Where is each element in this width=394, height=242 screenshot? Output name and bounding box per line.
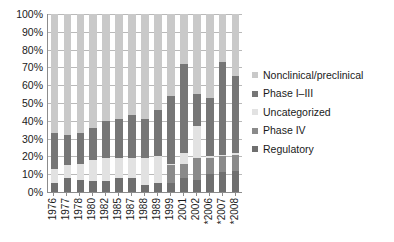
bar-column[interactable] [203, 14, 216, 192]
stacked-bar[interactable] [206, 14, 214, 192]
bar-column[interactable] [164, 14, 177, 192]
bar-segment[interactable] [167, 14, 175, 96]
bar-segment[interactable] [64, 178, 72, 192]
bar-column[interactable] [126, 14, 139, 192]
legend-item[interactable]: Regulatory [252, 140, 392, 159]
bar-segment[interactable] [89, 160, 97, 181]
stacked-bar[interactable] [180, 14, 188, 192]
bar-segment[interactable] [64, 135, 72, 165]
bar-segment[interactable] [115, 14, 123, 119]
bar-column[interactable] [61, 14, 74, 192]
bar-segment[interactable] [141, 119, 149, 158]
bar-segment[interactable] [232, 155, 240, 171]
bar-column[interactable] [152, 14, 165, 192]
bar-segment[interactable] [219, 156, 227, 172]
bar-column[interactable] [113, 14, 126, 192]
bar-segment[interactable] [206, 158, 214, 174]
stacked-bar[interactable] [219, 14, 227, 192]
bar-segment[interactable] [180, 153, 188, 164]
bar-segment[interactable] [154, 156, 162, 183]
bar-segment[interactable] [167, 165, 175, 183]
legend-swatch-icon [252, 128, 258, 134]
bar-segment[interactable] [193, 94, 201, 126]
bar-segment[interactable] [219, 172, 227, 192]
bar-segment[interactable] [102, 158, 110, 181]
bar-segment[interactable] [154, 14, 162, 110]
bar-column[interactable] [74, 14, 87, 192]
stacked-bar[interactable] [77, 14, 85, 192]
bar-segment[interactable] [219, 62, 227, 155]
bar-segment[interactable] [77, 14, 85, 133]
bar-segment[interactable] [232, 171, 240, 192]
bar-segment[interactable] [180, 64, 188, 153]
bar-segment[interactable] [51, 14, 59, 133]
stacked-bar[interactable] [232, 14, 240, 192]
stacked-bar[interactable] [167, 14, 175, 192]
bar-segment[interactable] [193, 158, 201, 179]
bar-segment[interactable] [64, 14, 72, 135]
bar-column[interactable] [190, 14, 203, 192]
bar-segment[interactable] [102, 181, 110, 192]
bar-segment[interactable] [180, 164, 188, 178]
bar-segment[interactable] [206, 174, 214, 192]
bar-segment[interactable] [89, 128, 97, 160]
bar-column[interactable] [139, 14, 152, 192]
stacked-bar[interactable] [64, 14, 72, 192]
bar-segment[interactable] [141, 185, 149, 192]
bar-segment[interactable] [77, 133, 85, 163]
bar-segment[interactable] [232, 14, 240, 76]
bar-column[interactable] [87, 14, 100, 192]
bar-segment[interactable] [102, 14, 110, 121]
bar-segment[interactable] [77, 180, 85, 192]
bar-segment[interactable] [89, 14, 97, 128]
stacked-bar[interactable] [193, 14, 201, 192]
bar-segment[interactable] [128, 158, 136, 178]
bar-segment[interactable] [141, 158, 149, 185]
bar-segment[interactable] [77, 164, 85, 180]
bar-segment[interactable] [206, 14, 214, 98]
stacked-bar[interactable] [51, 14, 59, 192]
bar-column[interactable] [177, 14, 190, 192]
bar-segment[interactable] [102, 121, 110, 158]
bar-segment[interactable] [51, 169, 59, 183]
bar-segment[interactable] [193, 14, 201, 94]
bar-segment[interactable] [128, 115, 136, 158]
bar-segment[interactable] [51, 133, 59, 169]
bar-segment[interactable] [193, 180, 201, 192]
stacked-bar[interactable] [128, 14, 136, 192]
bar-segment[interactable] [232, 76, 240, 153]
stacked-bar[interactable] [115, 14, 123, 192]
bar-segment[interactable] [180, 178, 188, 192]
bar-segment[interactable] [219, 14, 227, 62]
bar-column[interactable] [229, 14, 242, 192]
stacked-bar[interactable] [154, 14, 162, 192]
bar-segment[interactable] [193, 126, 201, 158]
legend-item[interactable]: Uncategorized [252, 103, 392, 122]
bar-segment[interactable] [89, 181, 97, 192]
bar-segment[interactable] [180, 14, 188, 64]
bar-segment[interactable] [154, 110, 162, 156]
bar-column[interactable] [216, 14, 229, 192]
bar-segment[interactable] [115, 178, 123, 192]
bar-segment[interactable] [154, 183, 162, 192]
bar-segment[interactable] [206, 98, 214, 157]
bar-column[interactable] [48, 14, 61, 192]
bar-segment[interactable] [51, 183, 59, 192]
bar-segment[interactable] [64, 165, 72, 177]
bar-column[interactable] [100, 14, 113, 192]
stacked-bar[interactable] [141, 14, 149, 192]
legend-item[interactable]: Phase I–III [252, 85, 392, 104]
x-tick-label: 1976 [48, 198, 58, 220]
bar-segment[interactable] [115, 158, 123, 178]
bar-segment[interactable] [141, 14, 149, 119]
bar-segment[interactable] [128, 14, 136, 115]
bar-segment[interactable] [128, 178, 136, 192]
legend-item[interactable]: Nonclinical/preclinical [252, 66, 392, 85]
bar-segment[interactable] [167, 183, 175, 192]
bar-segment[interactable] [115, 119, 123, 158]
x-axis-column: 1989 [151, 193, 164, 241]
stacked-bar[interactable] [102, 14, 110, 192]
stacked-bar[interactable] [89, 14, 97, 192]
bar-segment[interactable] [167, 96, 175, 164]
legend-item[interactable]: Phase IV [252, 122, 392, 141]
